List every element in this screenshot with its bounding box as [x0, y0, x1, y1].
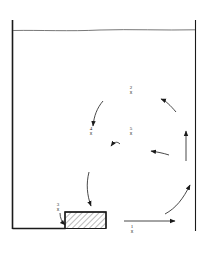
water-surface: [13, 30, 195, 31]
tank-flow-diagram: 2 x 4 x 5 x 3 x 1 x: [0, 0, 208, 257]
point-marker: x: [90, 130, 93, 136]
point-marker: x: [130, 89, 133, 95]
point-4: 4 x: [90, 126, 93, 136]
hatched-block: [65, 212, 106, 229]
flow-arrow-bottom-curve: [165, 185, 190, 214]
point-marker: x: [130, 130, 133, 136]
point-2: 2 x: [130, 85, 133, 95]
flow-arrow-top-left: [93, 101, 103, 126]
flow-arrow-small-curl: [111, 142, 120, 146]
point-3: 3 x: [57, 202, 60, 212]
point-marker: x: [57, 206, 60, 212]
flow-arrow-center-left: [151, 151, 169, 155]
point-marker: x: [131, 228, 134, 234]
point-5: 5 x: [130, 126, 133, 136]
flow-arrow-top-right: [161, 99, 176, 112]
flow-arrow-left-down: [87, 172, 91, 206]
flow-arrow-step-corner: [60, 213, 65, 225]
point-1: 1 x: [131, 224, 134, 234]
